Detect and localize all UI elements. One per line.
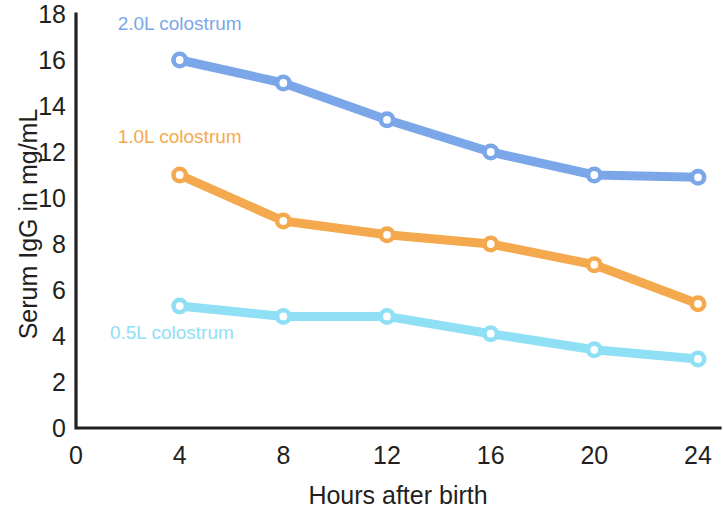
x-tick-label: 16 — [477, 441, 505, 469]
y-tick-label: 8 — [52, 230, 66, 258]
y-tick-label: 0 — [52, 414, 66, 442]
data-point-marker — [174, 54, 186, 66]
data-series — [174, 54, 705, 184]
data-point-marker — [692, 353, 704, 365]
y-tick-label: 16 — [38, 46, 66, 74]
series-label: 1.0L colostrum — [118, 126, 242, 147]
y-axis-tick-labels: 024681012141618 — [38, 0, 66, 442]
y-axis-title: Serum IgG in mg/mL — [14, 109, 42, 340]
data-point-marker — [692, 298, 704, 310]
x-axis-title: Hours after birth — [308, 481, 487, 509]
y-tick-label: 4 — [52, 322, 66, 350]
data-point-marker — [174, 300, 186, 312]
x-tick-label: 8 — [276, 441, 290, 469]
data-point-marker — [485, 146, 497, 158]
x-tick-label: 12 — [373, 441, 401, 469]
data-point-marker — [277, 215, 289, 227]
data-point-marker — [588, 344, 600, 356]
data-point-marker — [174, 169, 186, 181]
y-tick-label: 2 — [52, 368, 66, 396]
y-tick-label: 14 — [38, 92, 66, 120]
chart-axes — [76, 14, 720, 428]
y-tick-label: 6 — [52, 276, 66, 304]
axis-spine — [76, 14, 720, 428]
x-tick-label: 0 — [69, 441, 83, 469]
x-tick-label: 20 — [580, 441, 608, 469]
data-series-group — [174, 54, 705, 365]
y-tick-label: 18 — [38, 0, 66, 28]
data-point-marker — [692, 171, 704, 183]
series-label: 2.0L colostrum — [118, 13, 242, 34]
data-series — [174, 300, 705, 365]
y-tick-label: 12 — [38, 138, 66, 166]
x-tick-label: 24 — [684, 441, 712, 469]
x-tick-label: 4 — [173, 441, 187, 469]
series-line — [180, 306, 698, 359]
data-point-marker — [485, 238, 497, 250]
series-label: 0.5L colostrum — [110, 322, 234, 343]
data-series — [174, 169, 705, 310]
data-point-marker — [381, 114, 393, 126]
line-chart: 024681012141618 04812162024 2.0L colostr… — [0, 0, 723, 518]
x-axis-tick-labels: 04812162024 — [69, 441, 712, 469]
data-point-marker — [588, 169, 600, 181]
series-line — [180, 60, 698, 177]
data-point-marker — [485, 328, 497, 340]
data-point-marker — [381, 310, 393, 322]
y-tick-label: 10 — [38, 184, 66, 212]
data-point-marker — [381, 229, 393, 241]
chart-container: 024681012141618 04812162024 2.0L colostr… — [0, 0, 723, 518]
data-point-marker — [588, 259, 600, 271]
data-point-marker — [277, 310, 289, 322]
data-point-marker — [277, 77, 289, 89]
series-line — [180, 175, 698, 304]
